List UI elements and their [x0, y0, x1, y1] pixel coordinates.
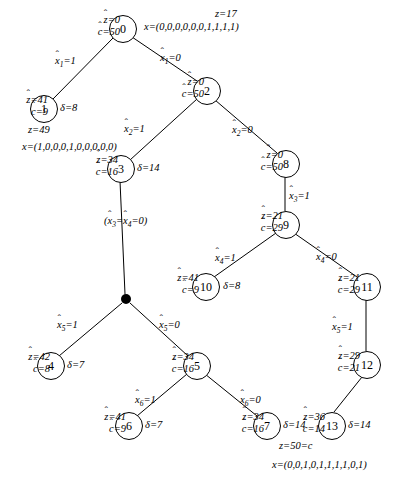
node-annotation-n5: ̂z=34̂c=16	[148, 351, 194, 376]
node-annotation-n10: ̂z=41̂c=9	[153, 272, 199, 297]
branch-point-marker[interactable]	[121, 294, 131, 304]
branch-condition-label: (̂x3=̂x4=0)	[104, 215, 147, 230]
tree-node-label: 11	[361, 281, 373, 293]
tree-edge-n3-bp	[120, 181, 125, 294]
delta-label-n7: δ=14	[283, 419, 305, 431]
node-annotation-n4: ̂z=42̂c=8	[4, 351, 50, 376]
tree-node-label: 2	[204, 85, 210, 97]
node-annotation-n8: ̂z=0̂c=50	[237, 149, 283, 174]
delta-label-n6: δ=7	[145, 419, 162, 431]
tree-node-label: 12	[361, 359, 373, 371]
tree-edges-layer	[0, 0, 410, 490]
edge-label-e-0-2: ̂x1=0	[160, 52, 181, 67]
solution-vector-sol-node1: x=(1,0,0,0,1,0,0,0,0,0)	[22, 141, 117, 153]
delta-label-n3: δ=14	[137, 162, 159, 174]
node-annotation-n11: ̂z=21̂c=29	[314, 272, 360, 297]
delta-label-n10: δ=8	[223, 280, 240, 292]
node-annotation-n0: ̂z=0̂c=50	[74, 14, 120, 39]
tree-node-label: 13	[326, 420, 338, 432]
tree-node-label: 9	[283, 219, 289, 231]
solution-vector-sol-node0: x=(0,0,0,0,0,0,1,1,1,1)	[144, 21, 239, 33]
solution-objective-sol-node13: z=50=c	[279, 440, 312, 452]
solution-vector-sol-node13: x=(0,0,1,0,1,1,1,1,0,1)	[272, 459, 367, 471]
delta-label-n4: δ=7	[67, 359, 84, 371]
tree-node-label: 0	[120, 23, 126, 35]
tree-node-label: 3	[118, 163, 124, 175]
tree-node-label: 8	[283, 158, 289, 170]
edge-label-e-2-8: ̂x2=0	[232, 124, 253, 139]
edge-label-e-9-10: ̂x4=1	[215, 252, 236, 267]
delta-label-n13: δ=14	[348, 419, 370, 431]
edge-label-e-8-9: ̂x3=1	[289, 190, 310, 205]
solution-objective-sol-node1: z=49	[28, 124, 50, 136]
node-annotation-n2: ̂z=0̂c=50	[158, 76, 204, 101]
edge-label-e-9-11: ̂x4=0	[316, 251, 337, 266]
tree-node-label: 6	[126, 420, 132, 432]
solution-objective-sol-node0: z=17	[215, 8, 237, 20]
node-annotation-n3: ̂z=34̂c=16	[72, 154, 118, 179]
delta-label-n1: δ=8	[60, 102, 77, 114]
node-annotation-n1: ̂z=41̂c=9	[2, 94, 48, 119]
edge-label-e-bp-4: ̂x5=1	[57, 319, 78, 334]
tree-edge-n12-n13	[334, 377, 362, 412]
node-annotation-n9: ̂z=21̂c=29	[237, 210, 283, 235]
tree-node-label: 7	[264, 420, 270, 432]
tree-node-label: 5	[194, 360, 200, 372]
node-annotation-n7: ̂z=34̂c=16	[218, 411, 264, 436]
tree-node-label: 10	[200, 281, 212, 293]
edge-label-e-0-1: ̂x1=1	[55, 55, 76, 70]
edge-label-e-bp-5: ̂x5=0	[159, 319, 180, 334]
node-annotation-n12: ̂z=29̂c=21	[314, 350, 360, 375]
edge-label-e-11-12: ̂x5=1	[332, 321, 353, 336]
edge-label-e-2-3: ̂x2=1	[124, 123, 145, 138]
branch-and-bound-diagram: 012345678910111213 ̂x1=1̂x1=0̂x2=1̂x2=0̂…	[0, 0, 410, 490]
node-annotation-n6: ̂z=41̂c=9	[80, 411, 126, 436]
edge-label-e-5-6: ̂x6=1	[135, 394, 156, 409]
